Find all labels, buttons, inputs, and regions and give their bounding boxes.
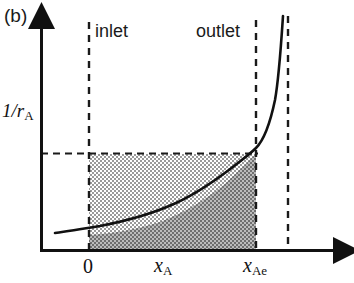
outlet-label: outlet xyxy=(196,22,240,40)
y-axis-label-subscript: A xyxy=(24,108,33,123)
x-tick-xae-subscript: Ae xyxy=(252,263,267,278)
plot-canvas xyxy=(0,0,354,283)
x-tick-xa-base: x xyxy=(154,254,163,276)
x-tick-xae-base: x xyxy=(243,254,252,276)
x-tick-label-xa: xA xyxy=(154,255,172,277)
x-tick-label-zero: 0 xyxy=(83,256,93,276)
y-axis-label: 1/rA xyxy=(2,101,34,122)
y-axis-label-base: 1/r xyxy=(2,100,24,121)
x-tick-xa-subscript: A xyxy=(163,263,172,278)
levenspiel-plot-figure: (b) 1/rA inlet outlet 0 xA xAe xyxy=(0,0,354,283)
panel-label: (b) xyxy=(4,6,27,25)
inlet-label: inlet xyxy=(95,22,128,40)
x-tick-label-xae: xAe xyxy=(243,255,267,277)
